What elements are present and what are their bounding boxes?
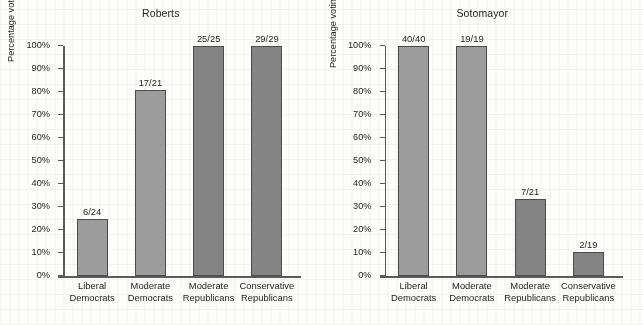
x-category-label-sotomayor-0: LiberalDemocrats xyxy=(391,280,436,305)
y-tick-label-sotomayor-6: 60% xyxy=(353,132,371,142)
y-tick-label-sotomayor-3: 30% xyxy=(353,201,371,211)
bar-sotomayor-3[interactable]: 2/19 xyxy=(573,252,604,276)
y-tick-label-roberts-2: 20% xyxy=(32,224,50,234)
x-category-line: Conservative xyxy=(561,280,616,292)
chart-title-roberts: Roberts xyxy=(0,7,322,19)
bar-sotomayor-1[interactable]: 19/19 xyxy=(456,46,487,276)
x-axis-line-roberts xyxy=(58,276,301,278)
bar-roberts-3[interactable]: 29/29 xyxy=(251,46,282,276)
x-category-line: Liberal xyxy=(69,280,114,292)
y-tick-label-sotomayor-10: 100% xyxy=(348,40,372,50)
x-category-line: Republicans xyxy=(240,292,295,304)
chart-panel-roberts: Roberts Percentage voting for Roberts by… xyxy=(0,0,322,325)
y-tick-label-roberts-4: 40% xyxy=(32,178,50,188)
bar-value-label-sotomayor-3: 2/19 xyxy=(579,239,597,250)
bar-value-label-roberts-3: 29/29 xyxy=(255,33,278,44)
figure-container: Roberts Percentage voting for Roberts by… xyxy=(0,0,643,325)
bar-sotomayor-2[interactable]: 7/21 xyxy=(515,199,546,276)
bar-roberts-1[interactable]: 17/21 xyxy=(135,90,166,276)
y-tick-label-sotomayor-5: 50% xyxy=(353,155,371,165)
x-category-line: Democrats xyxy=(69,292,114,304)
y-tick-label-sotomayor-2: 20% xyxy=(353,224,371,234)
x-category-label-sotomayor-3: ConservativeRepublicans xyxy=(561,280,616,305)
plot-area-roberts: 0%10%20%30%40%50%60%70%80%90%100% 6/2417… xyxy=(63,46,296,276)
x-category-line: Democrats xyxy=(128,292,173,304)
x-category-line: Moderate xyxy=(504,280,556,292)
x-category-line: Liberal xyxy=(391,280,436,292)
y-tick-label-roberts-1: 10% xyxy=(32,247,50,257)
chart-title-sotomayor: Sotomayor xyxy=(322,7,643,19)
x-category-label-roberts-2: ModerateRepublicans xyxy=(183,280,235,305)
x-category-label-roberts-0: LiberalDemocrats xyxy=(69,280,114,305)
bar-series-sotomayor: 40/4019/197/212/19 xyxy=(385,46,618,276)
y-tick-label-roberts-7: 70% xyxy=(32,109,50,119)
y-tick-label-sotomayor-4: 40% xyxy=(353,178,371,188)
bar-series-roberts: 6/2417/2125/2529/29 xyxy=(63,46,296,276)
bar-value-label-sotomayor-2: 7/21 xyxy=(521,186,539,197)
bar-value-label-roberts-1: 17/21 xyxy=(139,77,162,88)
y-tick-label-roberts-6: 60% xyxy=(32,132,50,142)
y-tick-label-sotomayor-9: 90% xyxy=(353,63,371,73)
y-tick-label-roberts-8: 80% xyxy=(32,86,50,96)
bar-value-label-sotomayor-0: 40/40 xyxy=(402,33,425,44)
y-tick-label-roberts-0: 0% xyxy=(37,270,50,280)
x-category-label-sotomayor-2: ModerateRepublicans xyxy=(504,280,556,305)
x-category-line: Democrats xyxy=(449,292,494,304)
chart-panel-sotomayor: Sotomayor Percentage voting for Sotomayo… xyxy=(322,0,643,325)
plot-area-sotomayor: 0%10%20%30%40%50%60%70%80%90%100% 40/401… xyxy=(385,46,618,276)
x-axis-line-sotomayor xyxy=(380,276,623,278)
x-category-label-sotomayor-1: ModerateDemocrats xyxy=(449,280,494,305)
y-tick-label-sotomayor-7: 70% xyxy=(353,109,371,119)
x-category-line: Moderate xyxy=(449,280,494,292)
bar-value-label-roberts-2: 25/25 xyxy=(197,33,220,44)
bar-roberts-0[interactable]: 6/24 xyxy=(77,219,108,277)
y-tick-label-roberts-5: 50% xyxy=(32,155,50,165)
y-tick-label-roberts-9: 90% xyxy=(32,63,50,73)
x-category-line: Moderate xyxy=(128,280,173,292)
y-axis-label-sotomayor: Percentage voting for Sotomayor by party… xyxy=(326,0,340,72)
y-tick-label-roberts-10: 100% xyxy=(27,40,51,50)
x-category-line: Moderate xyxy=(183,280,235,292)
x-category-line: Conservative xyxy=(240,280,295,292)
bar-value-label-sotomayor-1: 19/19 xyxy=(460,33,483,44)
x-axis-categories-roberts: LiberalDemocratsModerateDemocratsModerat… xyxy=(63,280,296,320)
x-category-label-roberts-1: ModerateDemocrats xyxy=(128,280,173,305)
y-tick-label-roberts-3: 30% xyxy=(32,201,50,211)
x-axis-categories-sotomayor: LiberalDemocratsModerateDemocratsModerat… xyxy=(385,280,618,320)
y-tick-label-sotomayor-8: 80% xyxy=(353,86,371,96)
bar-sotomayor-0[interactable]: 40/40 xyxy=(398,46,429,276)
x-category-line: Democrats xyxy=(391,292,436,304)
y-tick-label-sotomayor-1: 10% xyxy=(353,247,371,257)
x-category-line: Republicans xyxy=(504,292,556,304)
x-category-line: Republicans xyxy=(561,292,616,304)
y-axis-label-roberts: Percentage voting for Roberts by party a… xyxy=(4,0,18,72)
x-category-line: Republicans xyxy=(183,292,235,304)
y-tick-label-sotomayor-0: 0% xyxy=(358,270,371,280)
x-category-label-roberts-3: ConservativeRepublicans xyxy=(240,280,295,305)
bar-roberts-2[interactable]: 25/25 xyxy=(193,46,224,276)
bar-value-label-roberts-0: 6/24 xyxy=(83,206,101,217)
